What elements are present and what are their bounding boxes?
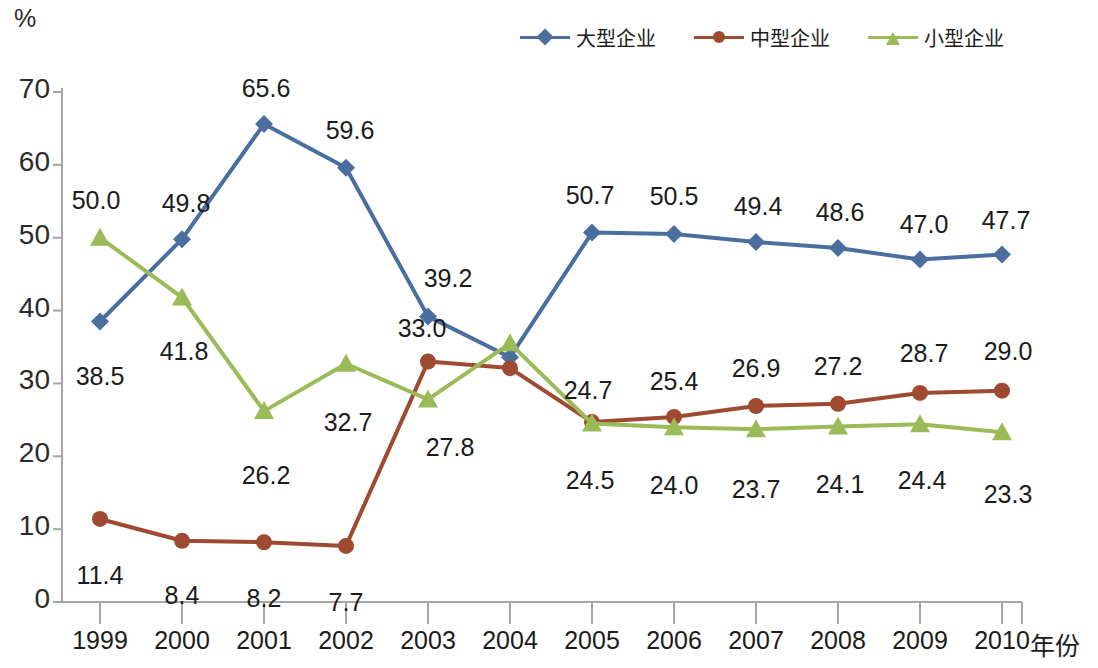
line-chart: % 大型企业中型企业小型企业 010203040506070 199920002… bbox=[0, 0, 1098, 668]
data-point-label: 24.1 bbox=[795, 470, 885, 499]
data-point-label: 49.4 bbox=[713, 192, 803, 221]
data-point-label: 33.0 bbox=[377, 314, 467, 343]
data-point-label: 50.5 bbox=[629, 182, 719, 211]
data-point-label: 8.4 bbox=[137, 581, 227, 610]
data-point-label: 47.7 bbox=[961, 206, 1051, 235]
data-point-label: 50.7 bbox=[545, 181, 635, 210]
data-point-label: 32.7 bbox=[303, 408, 393, 437]
data-point-label: 24.5 bbox=[545, 466, 635, 495]
data-point-label: 27.8 bbox=[405, 433, 495, 462]
data-point-label: 49.8 bbox=[141, 189, 231, 218]
data-point-label: 23.7 bbox=[711, 475, 801, 504]
x-axis-title: 年份 bbox=[1030, 626, 1080, 662]
data-point-label: 27.2 bbox=[793, 352, 883, 381]
data-point-label: 11.4 bbox=[55, 561, 145, 590]
data-point-label: 47.0 bbox=[879, 210, 969, 239]
data-point-label: 29.0 bbox=[963, 337, 1053, 366]
data-point-label: 38.5 bbox=[55, 362, 145, 391]
data-point-label: 59.6 bbox=[305, 116, 395, 145]
data-point-label: 24.0 bbox=[629, 471, 719, 500]
data-point-label: 48.6 bbox=[795, 198, 885, 227]
data-point-label: 65.6 bbox=[221, 74, 311, 103]
data-point-label: 8.2 bbox=[219, 584, 309, 613]
data-point-label: 26.9 bbox=[711, 354, 801, 383]
data-point-labels: 38.549.865.659.639.250.750.549.448.647.0… bbox=[0, 0, 1098, 668]
data-point-label: 50.0 bbox=[51, 186, 141, 215]
data-point-label: 41.8 bbox=[139, 337, 229, 366]
data-point-label: 7.7 bbox=[301, 588, 391, 617]
data-point-label: 28.7 bbox=[879, 339, 969, 368]
data-point-label: 25.4 bbox=[629, 367, 719, 396]
data-point-label: 24.7 bbox=[543, 376, 633, 405]
data-point-label: 26.2 bbox=[221, 461, 311, 490]
data-point-label: 39.2 bbox=[403, 264, 493, 293]
data-point-label: 24.4 bbox=[877, 466, 967, 495]
data-point-label: 23.3 bbox=[963, 480, 1053, 509]
